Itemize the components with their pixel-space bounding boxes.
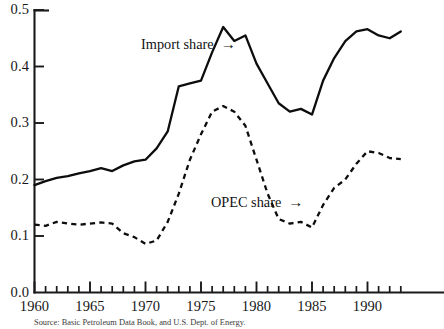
chart-container: 0.00.10.20.30.40.5 196019651970197519801… xyxy=(0,0,444,329)
chart-axes xyxy=(35,10,444,293)
y-axis-ticks xyxy=(35,10,45,236)
x-axis-tick-label: 1970 xyxy=(116,298,176,315)
y-axis-tick-label: 0.4 xyxy=(0,58,29,75)
x-axis-tick-label: 1980 xyxy=(227,298,287,315)
y-axis-tick-label: 0.3 xyxy=(0,114,29,131)
x-axis-tick-label: 1960 xyxy=(5,298,65,315)
y-axis-tick-label: 0.1 xyxy=(0,227,29,244)
import-share-annotation-text: Import share xyxy=(141,36,214,52)
opec-share-annotation-text: OPEC share xyxy=(211,194,281,210)
y-axis-tick-label: 0.2 xyxy=(0,171,29,188)
y-axis-tick-label: 0.5 xyxy=(0,1,29,18)
source-note: Source: Basic Petroleum Data Book, and U… xyxy=(34,318,444,327)
x-axis-tick-label: 1965 xyxy=(60,298,120,315)
x-axis-tick-label: 1985 xyxy=(282,298,342,315)
x-axis-tick-label: 1975 xyxy=(171,298,231,315)
import-share-annotation: Import share→ xyxy=(141,36,236,53)
opec-share-annotation: OPEC share→ xyxy=(211,194,303,211)
opec-share-arrow-icon: → xyxy=(281,194,303,210)
series-line-opec-share xyxy=(35,106,401,244)
import-share-arrow-icon: → xyxy=(214,36,236,52)
x-axis-ticks xyxy=(35,282,401,293)
x-axis-tick-label: 1990 xyxy=(338,298,398,315)
